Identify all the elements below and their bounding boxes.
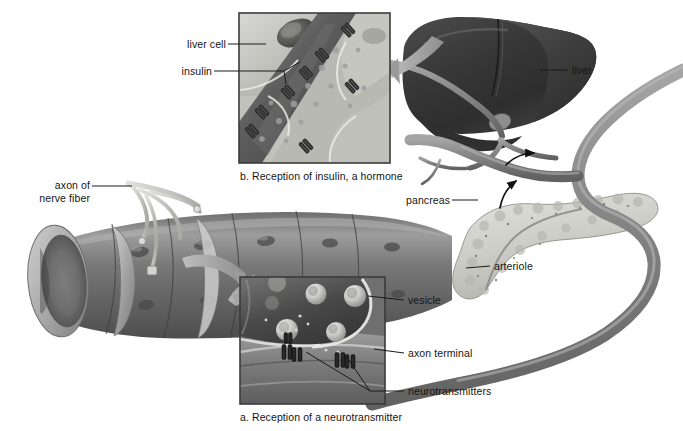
label-axon-of: axon of [22,179,90,192]
label-neurotransmitters: neurotransmitters [408,385,491,398]
label-nerve-fiber: nerve fiber [22,192,90,205]
label-liver: liver [572,64,592,77]
pancreas [453,193,658,299]
caption-panel-a: a. Reception of a neurotransmitter [240,411,402,423]
label-liver-cell: liver cell [152,38,226,51]
caption-panel-b: b. Reception of insulin, a hormone [240,170,403,182]
label-vesicle: vesicle [408,294,441,307]
label-arteriole: arteriole [494,260,533,273]
panel-b-image [239,13,390,163]
label-axon-terminal: axon terminal [408,347,472,360]
label-insulin: insulin [152,65,212,78]
label-pancreas: pancreas [380,194,450,207]
flow-arrows [500,153,534,208]
figure-canvas: liver cell insulin liver pancreas arteri… [0,0,683,431]
panel-a-image [240,274,385,404]
